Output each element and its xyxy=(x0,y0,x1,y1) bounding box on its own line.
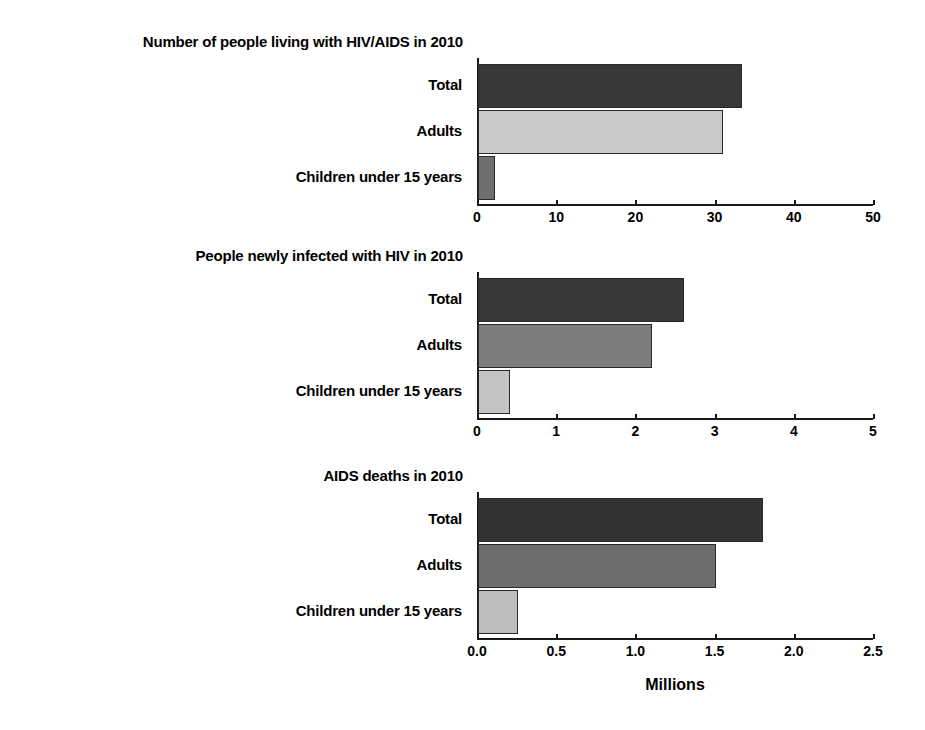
x-tick-1-2 xyxy=(556,200,558,205)
x-tick-1-6 xyxy=(873,200,875,205)
category-label-1-2: Adults xyxy=(417,122,462,139)
x-tick-1-4 xyxy=(715,200,717,205)
x-tick-label-1-3: 20 xyxy=(628,209,644,225)
x-tick-2-2 xyxy=(556,414,558,419)
x-tick-label-2-1: 0 xyxy=(473,423,481,439)
x-tick-label-2-3: 2 xyxy=(631,423,639,439)
x-tick-2-6 xyxy=(873,414,875,419)
category-label-3-2: Adults xyxy=(417,556,462,573)
x-axis-line-1 xyxy=(477,204,873,206)
x-tick-label-3-3: 1.0 xyxy=(626,643,645,659)
category-label-1-1: Total xyxy=(428,76,462,93)
x-tick-1-5 xyxy=(794,200,796,205)
bar-2-2 xyxy=(478,324,652,368)
chart-panel-3: AIDS deaths in 2010TotalAdultsChildren u… xyxy=(0,462,925,662)
x-tick-2-3 xyxy=(635,414,637,419)
category-label-1-3: Children under 15 years xyxy=(296,168,462,185)
x-tick-1-3 xyxy=(635,200,637,205)
bar-1-3 xyxy=(478,156,495,200)
x-tick-3-2 xyxy=(556,634,558,639)
bar-1-2 xyxy=(478,110,723,154)
x-tick-label-2-4: 3 xyxy=(711,423,719,439)
chart-title-3: AIDS deaths in 2010 xyxy=(323,467,463,484)
x-tick-label-1-4: 30 xyxy=(707,209,723,225)
x-tick-label-3-6: 2.5 xyxy=(863,643,882,659)
x-tick-label-1-5: 40 xyxy=(786,209,802,225)
bar-2-1 xyxy=(478,278,684,322)
category-label-3-1: Total xyxy=(428,510,462,527)
x-tick-3-3 xyxy=(635,634,637,639)
chart-title-2: People newly infected with HIV in 2010 xyxy=(196,247,463,264)
x-axis-line-3 xyxy=(477,638,873,640)
category-label-3-3: Children under 15 years xyxy=(296,602,462,619)
x-tick-label-3-5: 2.0 xyxy=(784,643,803,659)
bar-3-1 xyxy=(478,498,763,542)
bar-3-3 xyxy=(478,590,518,634)
plot-area-2: 012345 xyxy=(477,272,873,458)
x-tick-2-4 xyxy=(715,414,717,419)
x-tick-label-1-2: 10 xyxy=(548,209,564,225)
category-label-2-3: Children under 15 years xyxy=(296,382,462,399)
hiv-aids-statistics-figure: Number of people living with HIV/AIDS in… xyxy=(0,0,925,730)
chart-panel-1: Number of people living with HIV/AIDS in… xyxy=(0,28,925,228)
bar-2-3 xyxy=(478,370,510,414)
x-tick-1-1 xyxy=(477,200,479,205)
x-tick-label-1-6: 50 xyxy=(865,209,881,225)
chart-title-1: Number of people living with HIV/AIDS in… xyxy=(143,33,463,50)
x-tick-label-3-4: 1.5 xyxy=(705,643,724,659)
x-tick-3-5 xyxy=(794,634,796,639)
x-tick-label-3-1: 0.0 xyxy=(467,643,486,659)
category-label-2-1: Total xyxy=(428,290,462,307)
x-tick-label-1-1: 0 xyxy=(473,209,481,225)
x-tick-3-4 xyxy=(715,634,717,639)
x-tick-2-5 xyxy=(794,414,796,419)
bar-1-1 xyxy=(478,64,742,108)
plot-area-3: 0.00.51.01.52.02.5 xyxy=(477,492,873,678)
x-axis-title: Millions xyxy=(645,676,705,694)
x-axis-line-2 xyxy=(477,418,873,420)
x-tick-label-2-2: 1 xyxy=(552,423,560,439)
x-tick-3-6 xyxy=(873,634,875,639)
category-label-2-2: Adults xyxy=(417,336,462,353)
x-tick-2-1 xyxy=(477,414,479,419)
x-tick-label-2-6: 5 xyxy=(869,423,877,439)
bar-3-2 xyxy=(478,544,716,588)
x-tick-3-1 xyxy=(477,634,479,639)
x-tick-label-2-5: 4 xyxy=(790,423,798,439)
plot-area-1: 01020304050 xyxy=(477,58,873,244)
x-tick-label-3-2: 0.5 xyxy=(546,643,565,659)
chart-panel-2: People newly infected with HIV in 2010To… xyxy=(0,242,925,442)
